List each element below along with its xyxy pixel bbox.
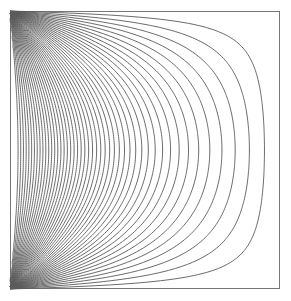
contour-plot [0,0,291,301]
